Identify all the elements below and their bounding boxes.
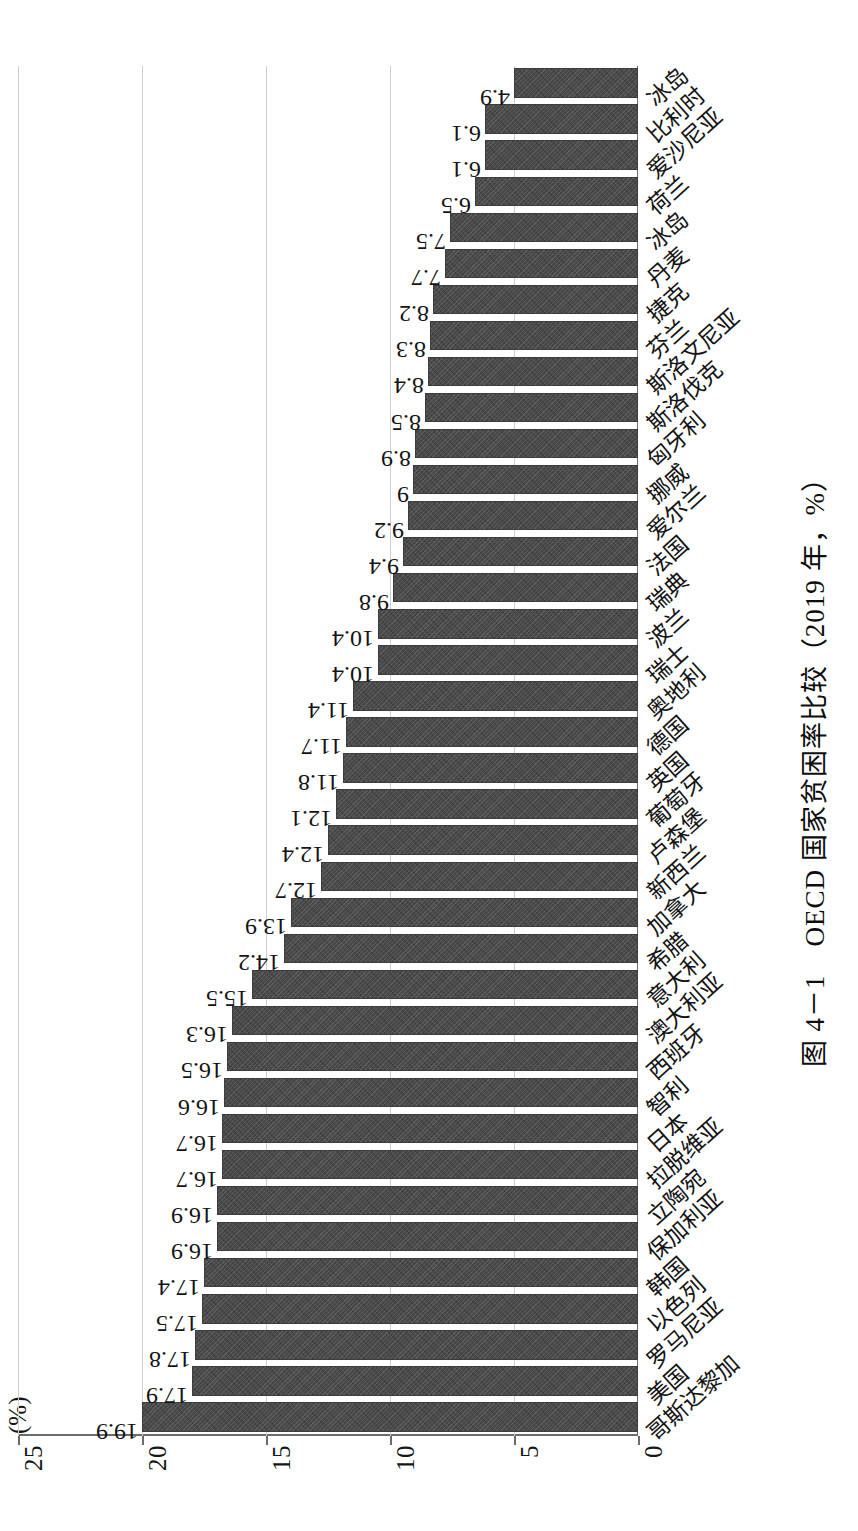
bar-group[interactable]: 8.3芬兰 xyxy=(18,318,638,354)
bar[interactable] xyxy=(328,825,638,854)
bar[interactable] xyxy=(393,573,638,602)
bar[interactable] xyxy=(445,249,638,278)
bar[interactable] xyxy=(222,1150,638,1179)
bar-group[interactable]: 7.5冰岛 xyxy=(18,210,638,246)
y-axis-tick-label: 5 xyxy=(516,1445,544,1458)
bar-group[interactable]: 8.5斯洛伐克 xyxy=(18,390,638,426)
figure-caption: 图 4－1 OECD 国家贫困率比较（2019 年，%） xyxy=(793,0,832,1531)
bar-group[interactable]: 10.4波兰 xyxy=(18,607,638,643)
bar-group[interactable]: 19.9哥斯达黎加 xyxy=(18,1400,638,1436)
bar-group[interactable]: 8.4斯洛文尼亚 xyxy=(18,354,638,390)
bar-value-label: 17.8 xyxy=(149,1346,191,1373)
bar-group[interactable]: 6.5荷兰 xyxy=(18,174,638,210)
bar-value-label: 10.4 xyxy=(332,661,374,688)
bar[interactable] xyxy=(430,321,638,350)
bar[interactable] xyxy=(204,1258,638,1287)
bar-group[interactable]: 7.7丹麦 xyxy=(18,246,638,282)
bar-group[interactable]: 13.9加拿大 xyxy=(18,895,638,931)
bar[interactable] xyxy=(415,429,638,458)
bar-value-label: 11.8 xyxy=(298,769,339,796)
bar-group[interactable]: 17.9美国 xyxy=(18,1364,638,1400)
bar-value-label: 9.2 xyxy=(374,517,404,544)
bar-group[interactable]: 10.4瑞士 xyxy=(18,643,638,679)
y-axis-tick-label: 10 xyxy=(392,1445,420,1471)
bar[interactable] xyxy=(514,68,638,97)
bar[interactable] xyxy=(450,213,638,242)
bar-value-label: 11.4 xyxy=(308,697,349,724)
bar-group[interactable]: 16.9保加利亚 xyxy=(18,1220,638,1256)
bar-group[interactable]: 9.2爱尔兰 xyxy=(18,499,638,535)
bar-value-label: 9.8 xyxy=(359,589,389,616)
bar[interactable] xyxy=(227,1042,638,1071)
bar[interactable] xyxy=(284,934,638,963)
bar[interactable] xyxy=(343,753,638,782)
bar[interactable] xyxy=(428,357,638,386)
bar[interactable] xyxy=(217,1186,638,1215)
bar-group[interactable]: 4.9冰岛 xyxy=(18,66,638,102)
bar-group[interactable]: 16.7拉脱维亚 xyxy=(18,1148,638,1184)
bar[interactable] xyxy=(291,898,638,927)
bar-group[interactable]: 17.8罗马尼亚 xyxy=(18,1328,638,1364)
bar[interactable] xyxy=(336,789,638,818)
y-axis-tick-mark xyxy=(638,1436,640,1445)
bar[interactable] xyxy=(195,1330,638,1359)
bar-value-label: 8.4 xyxy=(394,372,424,399)
bar-group[interactable]: 17.4韩国 xyxy=(18,1256,638,1292)
bar[interactable] xyxy=(192,1366,638,1395)
bar[interactable] xyxy=(202,1294,638,1323)
bar-group[interactable]: 8.2捷克 xyxy=(18,282,638,318)
bar-group[interactable]: 16.3澳大利亚 xyxy=(18,1003,638,1039)
bar-group[interactable]: 15.5意大利 xyxy=(18,967,638,1003)
bar-value-label: 16.9 xyxy=(171,1202,213,1229)
bar-group[interactable]: 6.1比利时 xyxy=(18,102,638,138)
bar[interactable] xyxy=(408,501,638,530)
y-axis-tick-label: 25 xyxy=(20,1445,48,1471)
y-axis-tick-mark xyxy=(142,1436,144,1445)
bar-group[interactable]: 11.4奥地利 xyxy=(18,679,638,715)
bar-group[interactable]: 16.7日本 xyxy=(18,1112,638,1148)
y-axis-tick-label: 0 xyxy=(640,1445,668,1458)
y-axis-tick-mark xyxy=(514,1436,516,1445)
bar-group[interactable]: 16.9立陶宛 xyxy=(18,1184,638,1220)
bar[interactable] xyxy=(378,645,638,674)
bar-value-label: 8.9 xyxy=(381,445,411,472)
bar-group[interactable]: 9.8瑞典 xyxy=(18,571,638,607)
bar[interactable] xyxy=(346,717,638,746)
bar[interactable] xyxy=(222,1114,638,1143)
bar-value-label: 16.3 xyxy=(186,1021,228,1048)
bar-group[interactable]: 16.6智利 xyxy=(18,1075,638,1111)
bar-group[interactable]: 6.1爱沙尼亚 xyxy=(18,138,638,174)
bar-value-label: 12.7 xyxy=(275,877,317,904)
y-axis-tick-mark xyxy=(266,1436,268,1445)
bar-value-label: 6.5 xyxy=(441,192,471,219)
bar-value-label: 9.4 xyxy=(369,553,399,580)
bar-group[interactable]: 9挪威 xyxy=(18,463,638,499)
bar-group[interactable]: 12.7新西兰 xyxy=(18,859,638,895)
bar-group[interactable]: 9.4法国 xyxy=(18,535,638,571)
bar[interactable] xyxy=(252,970,638,999)
bar[interactable] xyxy=(321,862,638,891)
bar-group[interactable]: 16.5西班牙 xyxy=(18,1039,638,1075)
bar-group[interactable]: 8.9匈牙利 xyxy=(18,427,638,463)
bar-series: 19.9哥斯达黎加17.9美国17.8罗马尼亚17.5以色列17.4韩国16.9… xyxy=(18,66,638,1436)
bar[interactable] xyxy=(433,285,638,314)
bar[interactable] xyxy=(353,681,638,710)
bar-group[interactable]: 17.5以色列 xyxy=(18,1292,638,1328)
bar[interactable] xyxy=(403,537,638,566)
bar[interactable] xyxy=(142,1402,638,1431)
bar-group[interactable]: 14.2希腊 xyxy=(18,931,638,967)
bar[interactable] xyxy=(485,140,638,169)
y-axis-tick-label: 20 xyxy=(144,1445,172,1471)
bar[interactable] xyxy=(475,177,638,206)
bar[interactable] xyxy=(224,1078,638,1107)
bar[interactable] xyxy=(425,393,638,422)
bar[interactable] xyxy=(217,1222,638,1251)
figure: (%) 0510152025 19.9哥斯达黎加17.9美国17.8罗马尼亚17… xyxy=(0,0,858,1531)
y-axis-tick-mark xyxy=(390,1436,392,1445)
bar[interactable] xyxy=(413,465,638,494)
bar[interactable] xyxy=(232,1006,638,1035)
bar[interactable] xyxy=(378,609,638,638)
bar-value-label: 11.7 xyxy=(301,733,342,760)
bar-value-label: 15.5 xyxy=(206,985,248,1012)
bar-value-label: 16.7 xyxy=(176,1166,218,1193)
